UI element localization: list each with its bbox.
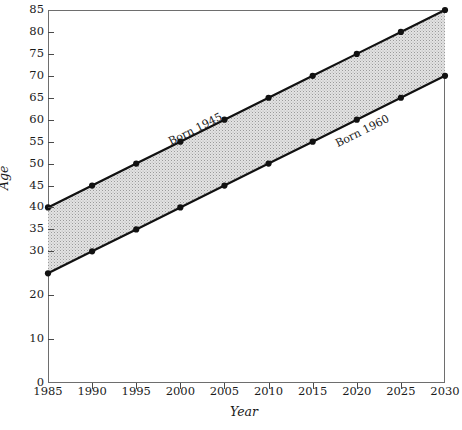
series-line-2 [48,76,445,273]
data-point-marker [398,95,404,101]
y-tick-mark [48,164,54,165]
x-tick-mark [224,383,225,389]
x-tick-mark [180,383,181,389]
data-point-marker [177,204,183,210]
data-point-marker [89,182,95,188]
y-tick-mark [48,142,54,143]
data-point-marker [398,29,404,35]
data-point-marker [133,226,139,232]
x-tick-mark [136,383,137,389]
cohort-band-fill [48,10,445,273]
x-tick-mark [313,383,314,389]
x-tick-mark [357,383,358,389]
y-tick-mark [48,54,54,55]
data-point-marker [133,160,139,166]
data-point-marker [354,117,360,123]
y-tick-mark [48,120,54,121]
data-point-marker [310,73,316,79]
y-tick-mark [48,251,54,252]
x-tick-mark [92,383,93,389]
data-point-marker [442,7,448,13]
series-line-1 [48,10,445,207]
y-tick-mark [48,339,54,340]
y-tick-mark [48,76,54,77]
data-point-marker [265,95,271,101]
x-axis-title: Year [0,404,462,419]
x-tick-mark [401,383,402,389]
y-tick-mark [48,295,54,296]
y-tick-mark [48,207,54,208]
data-point-marker [45,270,51,276]
data-point-marker [310,139,316,145]
data-point-marker [442,73,448,79]
data-point-marker [354,51,360,57]
chart-data-layer [48,10,445,383]
x-tick-mark [269,383,270,389]
y-tick-mark [48,186,54,187]
data-point-marker [89,248,95,254]
age-cohort-line-chart: 01020303540455055606570758085 1985199019… [0,0,462,430]
y-tick-mark [48,32,54,33]
data-point-marker [221,182,227,188]
y-axis-title: Age [0,166,11,190]
y-tick-mark [48,98,54,99]
data-point-marker [265,160,271,166]
y-tick-mark [48,229,54,230]
